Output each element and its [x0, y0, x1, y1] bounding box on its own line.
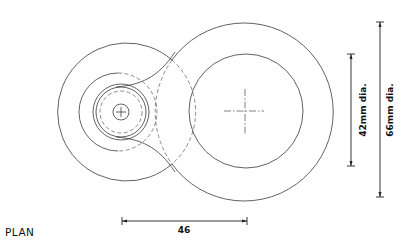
dim-42mm [347, 54, 355, 166]
upper-connecting-curve [116, 52, 175, 87]
dim-66mm-label: 66mm dia. [385, 83, 395, 136]
right-outer-circle [155, 23, 333, 201]
left-outer-circle [58, 43, 196, 181]
right-center-mark [224, 89, 264, 135]
dim-66mm [376, 22, 384, 197]
dim-46-label: 46 [178, 225, 191, 235]
dim-42mm-label: 42mm dia. [358, 83, 368, 136]
dim-46 [122, 217, 247, 225]
view-label: PLAN [5, 226, 34, 238]
plan-drawing: 42mm dia. 66mm dia. 46 PLAN [0, 0, 406, 247]
hole-center-mark [116, 107, 126, 117]
